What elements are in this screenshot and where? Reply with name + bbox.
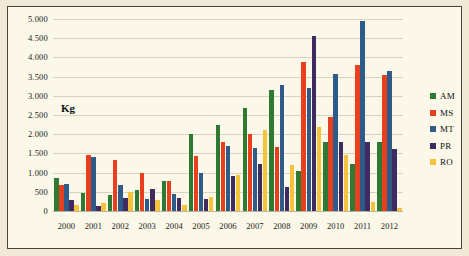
x-tick-label: 2007	[241, 221, 268, 231]
bar-AM-2012	[377, 142, 381, 211]
bar-MS-2000	[59, 185, 63, 211]
legend-item-MT[interactable]: MT	[430, 124, 455, 134]
bar-AM-2003	[135, 190, 139, 211]
bar-RO-2006	[236, 175, 240, 211]
bar-group-2003	[134, 19, 161, 211]
bar-AM-2010	[323, 142, 327, 211]
bar-MT-2008	[280, 85, 284, 211]
x-tick-label: 2012	[376, 221, 403, 231]
bar-PR-2012	[392, 149, 396, 211]
y-tick-label: 4.500	[28, 33, 48, 43]
bar-group-2004	[161, 19, 188, 211]
bar-RO-2010	[344, 155, 348, 211]
legend-item-PR[interactable]: PR	[430, 141, 455, 151]
bar-group-2011	[349, 19, 376, 211]
bar-MS-2001	[86, 155, 90, 211]
x-tick-label: 2010	[322, 221, 349, 231]
bar-MS-2003	[140, 173, 144, 211]
bar-MT-2004	[172, 194, 176, 211]
legend-swatch-icon	[430, 110, 436, 116]
bar-group-2007	[241, 19, 268, 211]
legend-label: RO	[440, 157, 453, 167]
bar-MT-2010	[333, 74, 337, 211]
bar-group-2009	[295, 19, 322, 211]
x-tick-label: 2000	[53, 221, 80, 231]
bar-PR-2009	[312, 36, 316, 211]
bar-RO-2011	[371, 202, 375, 211]
bar-MS-2011	[355, 65, 359, 211]
y-tick-label: 3.500	[28, 72, 48, 82]
x-tick-label: 2002	[107, 221, 134, 231]
bar-RO-2003	[155, 200, 159, 211]
bar-RO-2009	[317, 127, 321, 211]
x-tick-label: 2009	[295, 221, 322, 231]
bar-groups	[53, 19, 403, 211]
chart-legend: AMMSMTPRRO	[430, 91, 455, 167]
legend-swatch-icon	[430, 159, 436, 165]
bar-AM-2005	[189, 134, 193, 211]
bar-MS-2012	[382, 75, 386, 211]
y-tick-label: 3.000	[28, 91, 48, 101]
bar-AM-2001	[81, 193, 85, 211]
x-tick-label: 2008	[268, 221, 295, 231]
bar-MS-2009	[301, 62, 305, 211]
bar-group-2012	[376, 19, 403, 211]
legend-item-RO[interactable]: RO	[430, 157, 455, 167]
bar-MS-2002	[113, 160, 117, 211]
bar-group-2005	[188, 19, 215, 211]
legend-item-MS[interactable]: MS	[430, 108, 455, 118]
bar-MS-2007	[248, 134, 252, 211]
bar-RO-2005	[209, 197, 213, 211]
y-tick-label: 1.000	[28, 168, 48, 178]
bar-MT-2000	[64, 184, 68, 211]
bar-AM-2006	[216, 125, 220, 211]
bar-AM-2009	[296, 171, 300, 211]
bar-RO-2001	[101, 203, 105, 211]
y-tick-label: 2.500	[28, 110, 48, 120]
bar-AM-2002	[108, 195, 112, 211]
x-tick-label: 2004	[161, 221, 188, 231]
bar-PR-2003	[150, 189, 154, 211]
bar-AM-2008	[269, 90, 273, 211]
legend-swatch-icon	[430, 126, 436, 132]
bar-RO-2000	[74, 205, 78, 211]
bar-MS-2006	[221, 142, 225, 211]
x-axis: 2000200120022003200420052006200720082009…	[53, 221, 403, 231]
chart-outer-frame: 5.0004.5004.0003.5003.0002.5002.0001.500…	[0, 0, 469, 256]
bar-PR-2006	[231, 176, 235, 211]
legend-label: MT	[440, 124, 454, 134]
bar-PR-2004	[177, 198, 181, 211]
chart-inner-frame: 5.0004.5004.0003.5003.0002.5002.0001.500…	[7, 6, 462, 249]
bar-RO-2002	[128, 192, 132, 211]
y-tick-label: 0	[44, 206, 48, 216]
x-tick-label: 2006	[215, 221, 242, 231]
plot-area	[53, 19, 403, 211]
bar-MT-2009	[307, 88, 311, 211]
x-tick-label: 2011	[349, 221, 376, 231]
bar-RO-2004	[182, 205, 186, 211]
bar-group-2006	[215, 19, 242, 211]
bar-MS-2008	[275, 147, 279, 211]
bar-MT-2001	[91, 157, 95, 211]
bar-MS-2005	[194, 156, 198, 211]
legend-swatch-icon	[430, 143, 436, 149]
bar-MT-2005	[199, 173, 203, 211]
bar-MT-2011	[360, 21, 364, 211]
bar-group-2000	[53, 19, 80, 211]
legend-item-AM[interactable]: AM	[430, 91, 455, 101]
bar-PR-2011	[365, 142, 369, 211]
bar-MT-2006	[226, 146, 230, 211]
y-tick-label: 500	[35, 187, 48, 197]
bar-MT-2003	[145, 199, 149, 211]
bar-AM-2004	[162, 181, 166, 211]
y-tick-label: 4.000	[28, 52, 48, 62]
bar-PR-2001	[96, 206, 100, 211]
x-tick-label: 2001	[80, 221, 107, 231]
bar-group-2001	[80, 19, 107, 211]
legend-label: PR	[440, 141, 451, 151]
bar-PR-2005	[204, 199, 208, 211]
y-tick-label: 2.000	[28, 129, 48, 139]
y-tick-label: 1.500	[28, 148, 48, 158]
bar-group-2010	[322, 19, 349, 211]
y-tick-label: 5.000	[28, 14, 48, 24]
